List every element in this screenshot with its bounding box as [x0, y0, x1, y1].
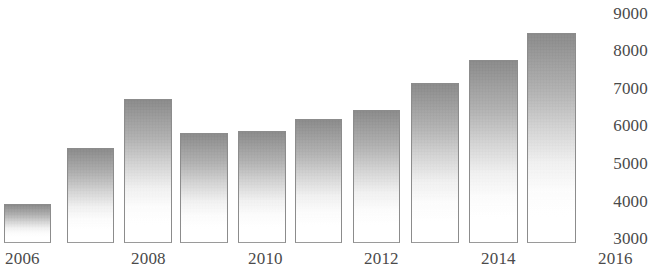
bar-texture [181, 134, 227, 242]
x-tick-2010: 2010 [248, 250, 283, 267]
bar-2012 [353, 110, 400, 243]
bar-texture [5, 205, 50, 242]
bar-2010 [238, 131, 286, 243]
x-tick-2012: 2012 [364, 250, 399, 267]
bar-texture [125, 100, 171, 242]
bar-texture [412, 84, 458, 242]
bar-2015 [527, 33, 576, 243]
bar-texture [528, 34, 575, 242]
x-tick-2016: 2016 [598, 250, 633, 267]
y-tick-8000: 8000 [613, 42, 648, 59]
bar-2009 [180, 133, 228, 243]
bar-2007 [67, 148, 114, 243]
bar-2006 [4, 204, 51, 243]
y-tick-5000: 5000 [613, 155, 648, 172]
bar-texture [68, 149, 113, 242]
y-tick-9000: 9000 [613, 5, 648, 22]
y-tick-6000: 6000 [613, 117, 648, 134]
bar-2014 [469, 60, 518, 243]
bar-2008 [124, 99, 172, 243]
bar-texture [354, 111, 399, 242]
x-tick-2008: 2008 [131, 250, 166, 267]
x-tick-2006: 2006 [5, 250, 40, 267]
x-tick-2014: 2014 [481, 250, 516, 267]
bar-texture [296, 120, 341, 242]
y-tick-4000: 4000 [613, 193, 648, 210]
y-tick-3000: 3000 [613, 230, 648, 247]
bar-2013 [411, 83, 459, 243]
bar-2011 [295, 119, 342, 243]
bar-texture [470, 61, 517, 242]
bar-chart: 9000800070006000500040003000 20062008201… [0, 0, 656, 271]
bar-texture [239, 132, 285, 242]
y-tick-7000: 7000 [613, 80, 648, 97]
plot-area [0, 0, 600, 246]
